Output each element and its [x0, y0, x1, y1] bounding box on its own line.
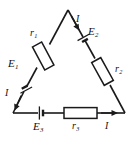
resistor-r2-body: [92, 58, 114, 86]
wire-apex-to-r1: [50, 10, 69, 45]
left-branch: [13, 10, 68, 113]
current-arrow-bottom-head: [112, 110, 119, 116]
label-e1-symbol: E: [8, 57, 15, 69]
label-e1: E1: [8, 58, 18, 69]
label-r2-subscript: 2: [119, 68, 122, 75]
circuit-diagram-figure: r1 r2 r3 E1 E2 E3 I I I: [0, 0, 135, 144]
label-e3-subscript: 3: [40, 126, 43, 133]
resistor-r2: [92, 58, 114, 86]
label-e2-subscript: 2: [95, 31, 98, 38]
label-r3-subscript: 3: [76, 125, 79, 132]
bottom-branch: [13, 106, 125, 119]
resistor-r1: [32, 42, 53, 70]
label-e2-symbol: E: [88, 25, 95, 37]
label-r2: r2: [115, 64, 122, 74]
label-current-top: I: [76, 14, 79, 24]
source-e1: [19, 84, 32, 93]
source-e2-short-plate: [82, 39, 88, 42]
resistor-r1-body: [32, 42, 53, 70]
current-arrow-bottom: [101, 110, 118, 116]
label-r3: r3: [72, 121, 79, 131]
source-e1-short-plate: [22, 86, 28, 89]
wire-r1-to-e1: [27, 68, 37, 87]
source-e3: [39, 106, 43, 119]
wire-r2-to-bottom-right: [110, 85, 125, 113]
label-current-bottom: I: [105, 121, 108, 131]
label-current-left: I: [5, 88, 8, 98]
label-e3: E3: [33, 121, 43, 132]
label-r1: r1: [30, 28, 37, 38]
label-e1-subscript: 1: [15, 63, 18, 70]
wire-e2-to-r2: [85, 41, 95, 59]
label-r1-subscript: 1: [34, 32, 37, 39]
label-e2: E2: [88, 26, 98, 37]
current-arrow-left: [14, 96, 21, 111]
resistor-r3-body: [64, 108, 97, 119]
label-e3-symbol: E: [33, 120, 40, 132]
